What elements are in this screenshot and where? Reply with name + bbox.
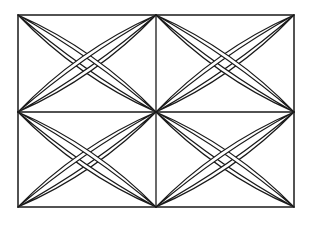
curved-band [156, 15, 294, 112]
curved-band [18, 15, 156, 112]
curved-band [18, 112, 156, 207]
curved-band [156, 15, 294, 112]
woven-pinwheel-diagram [0, 0, 310, 226]
curved-band [18, 112, 156, 207]
curved-band [156, 112, 294, 207]
curved-band [156, 112, 294, 207]
curved-band [18, 15, 156, 112]
curved-band [156, 112, 294, 207]
curved-band [18, 112, 156, 207]
curved-band [156, 112, 294, 207]
quadrant-bottom-right [156, 112, 294, 207]
curved-band [18, 15, 156, 112]
frame-and-dividers [18, 15, 294, 207]
curved-band [156, 15, 294, 112]
curved-band [156, 15, 294, 112]
quadrant-top-right [156, 15, 294, 112]
curved-band [18, 15, 156, 112]
quadrant-top-left [18, 15, 156, 112]
quadrant-bottom-left [18, 112, 156, 207]
curved-band [18, 112, 156, 207]
